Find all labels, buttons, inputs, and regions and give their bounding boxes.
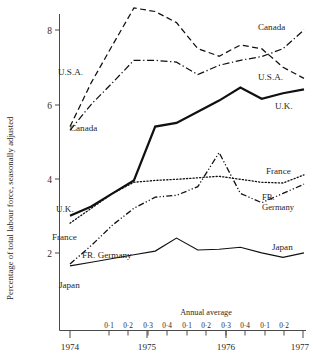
x-year-label-1975: 1975 bbox=[138, 342, 157, 352]
series-label-france-right: France bbox=[266, 166, 291, 176]
series-label-usa-left: U.S.A. bbox=[58, 67, 83, 77]
series-label-uk-right: U.K. bbox=[275, 101, 293, 111]
series-label-canada-right: Canada bbox=[258, 22, 285, 32]
series-label-frg-right-line1: FR. bbox=[262, 192, 275, 202]
x-quarter-label-4: 0·4 bbox=[162, 321, 172, 330]
y-axis-title: Percentage of total labour force, season… bbox=[5, 116, 15, 300]
x-year-label-1976: 1976 bbox=[217, 342, 236, 352]
x-quarter-label-6: 0·2 bbox=[201, 321, 211, 330]
y-tick-label-8: 8 bbox=[47, 26, 52, 36]
series-label-japan-left: Japan bbox=[59, 280, 80, 290]
unemployment-line-chart: 8 6 4 2 Percentage of total labour force… bbox=[0, 0, 313, 359]
y-tick-label-4: 4 bbox=[47, 175, 52, 185]
series-label-frg-left: FR. Germany bbox=[82, 250, 132, 260]
x-year-label-1974: 1974 bbox=[61, 342, 80, 352]
series-label-frg-right-line2: Germany bbox=[262, 202, 295, 212]
x-quarter-label-8: 0·4 bbox=[240, 321, 250, 330]
x-quarter-label-9: 0·1 bbox=[260, 321, 270, 330]
x-quarter-label-7: 0·3 bbox=[221, 321, 231, 330]
x-quarter-label-5: 0·1 bbox=[182, 321, 192, 330]
series-label-usa-right: U.S.A. bbox=[258, 72, 283, 82]
series-label-france-left: France bbox=[52, 232, 77, 242]
series-label-uk-left: U.K. bbox=[56, 204, 74, 214]
x-quarter-label-10: 0·2 bbox=[279, 321, 289, 330]
x-quarter-label-1: 0·1 bbox=[104, 321, 114, 330]
y-tick-label-6: 6 bbox=[47, 101, 52, 111]
series-label-japan-right: Japan bbox=[272, 242, 293, 252]
x-year-label-1977: 1977 bbox=[291, 342, 310, 352]
series-label-canada-left: Canada bbox=[70, 123, 97, 133]
x-quarter-label-2: 0·2 bbox=[123, 321, 133, 330]
y-tick-label-2: 2 bbox=[47, 249, 52, 259]
x-quarter-label-3: 0·3 bbox=[143, 321, 153, 330]
annual-average-caption: Annual average bbox=[180, 308, 232, 317]
